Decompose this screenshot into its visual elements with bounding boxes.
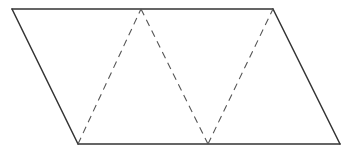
parallelogram-diagram xyxy=(0,0,347,152)
dashed-edge-2 xyxy=(141,9,208,144)
left-edge xyxy=(12,9,78,144)
dashed-edge-1 xyxy=(78,9,141,144)
solid-outline xyxy=(12,9,340,144)
right-edge xyxy=(273,9,340,144)
dashed-edge-3 xyxy=(208,9,273,144)
dashed-diagonals xyxy=(78,9,273,144)
